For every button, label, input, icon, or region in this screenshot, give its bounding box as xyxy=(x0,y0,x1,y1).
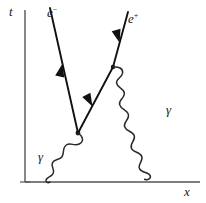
electron-label-charge: − xyxy=(53,5,58,14)
diagram-canvas xyxy=(0,0,206,203)
photon-outgoing-wave xyxy=(113,67,150,180)
electron-line-stroke xyxy=(50,8,78,133)
positron-lower-segment xyxy=(78,67,113,133)
electron-label: e− xyxy=(47,6,57,19)
photon-outgoing-line xyxy=(113,67,150,180)
time-axis-label: t xyxy=(9,5,13,18)
axes-group xyxy=(20,10,200,182)
positron-label: e+ xyxy=(128,12,138,25)
space-axis-label: x xyxy=(184,185,190,198)
photon-incoming-line xyxy=(46,133,83,183)
positron-upper-segment xyxy=(113,12,128,67)
feynman-diagram-figure: t x e− e+ γ γ xyxy=(0,0,206,203)
photon-incoming-label: γ xyxy=(38,150,43,163)
photon-incoming-wave xyxy=(46,133,83,183)
positron-line xyxy=(78,12,128,133)
photon-outgoing-label: γ xyxy=(166,103,171,116)
positron-label-charge: + xyxy=(134,11,139,20)
electron-line xyxy=(50,8,78,133)
